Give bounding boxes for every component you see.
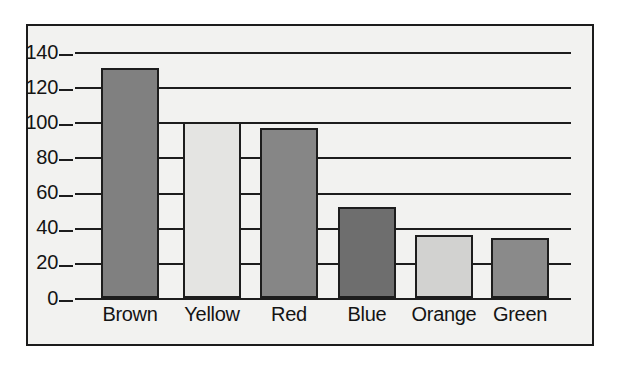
bar-red[interactable] xyxy=(260,128,318,298)
tick-stub-60 xyxy=(59,195,73,197)
tick-stub-80 xyxy=(59,159,73,161)
bar-orange[interactable] xyxy=(415,235,473,298)
y-tick-label-0: 0 xyxy=(0,288,58,308)
y-tick-label-40: 40 xyxy=(0,217,58,237)
bar-chart-figure: 140 120 100 80 60 40 20 0 Brown Yellow R… xyxy=(0,0,621,375)
tick-stub-40 xyxy=(59,230,73,232)
tick-stub-0 xyxy=(59,300,73,302)
gridline-140 xyxy=(75,52,571,54)
bar-green[interactable] xyxy=(491,238,549,298)
x-tick-label-green: Green xyxy=(471,303,569,325)
y-tick-label-20: 20 xyxy=(0,252,58,272)
bar-yellow[interactable] xyxy=(183,122,241,298)
y-tick-label-60: 60 xyxy=(0,182,58,202)
y-tick-label-140: 140 xyxy=(0,42,58,62)
plot-area xyxy=(75,52,571,298)
bar-blue[interactable] xyxy=(338,207,396,298)
y-tick-label-100: 100 xyxy=(0,112,58,132)
tick-stub-120 xyxy=(59,89,73,91)
tick-stub-20 xyxy=(59,265,73,267)
bar-brown[interactable] xyxy=(101,68,159,298)
x-axis-labels: Brown Yellow Red Blue Orange Green xyxy=(75,303,571,333)
tick-stub-100 xyxy=(59,124,73,126)
y-tick-label-120: 120 xyxy=(0,77,58,97)
y-axis-labels: 140 120 100 80 60 40 20 0 xyxy=(32,52,58,298)
axis-baseline-0 xyxy=(75,298,571,300)
y-tick-label-80: 80 xyxy=(0,147,58,167)
tick-stub-140 xyxy=(59,54,73,56)
